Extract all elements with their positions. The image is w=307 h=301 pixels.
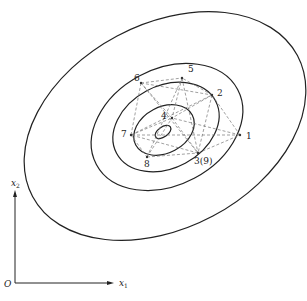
simplex-edges [131,78,240,157]
contour-inner [153,123,173,142]
point-label-7: 7 [121,129,127,139]
point-label-1: 1 [246,131,252,141]
point-label-3: 3(9) [194,156,212,166]
coordinate-axes: O x1 x2 [4,178,128,289]
point-1 [239,134,241,136]
point-6 [140,82,142,84]
edge-6-3 [141,83,198,153]
point-label-8: 8 [144,159,150,169]
y-axis-arrow [13,190,17,197]
point-label-6: 6 [134,73,140,83]
point-label-2: 2 [217,88,223,98]
point-label-5: 5 [188,64,194,74]
contour-4 [69,38,265,216]
point-2 [211,94,213,96]
simplex-points: 123(9)45678 [121,64,252,169]
edge-3-1 [198,135,240,153]
point-3 [197,152,199,154]
y-axis-label: x2 [11,178,20,189]
contour-outer [0,0,307,286]
origin-label: O [4,279,12,289]
point-4 [171,117,173,119]
edge-2-3 [198,95,212,153]
diagram-canvas: 123(9)45678 O x1 x2 [0,0,307,301]
point-5 [181,77,183,79]
point-8 [146,156,148,158]
edge-5-3 [182,78,198,153]
x-axis-label: x1 [119,278,128,289]
contour-lines [0,0,307,286]
point-7 [130,134,132,136]
x-axis-arrow [107,281,114,285]
edge-8-4 [147,118,172,157]
point-label-4: 4 [161,111,167,121]
edge-3-7 [131,135,198,153]
